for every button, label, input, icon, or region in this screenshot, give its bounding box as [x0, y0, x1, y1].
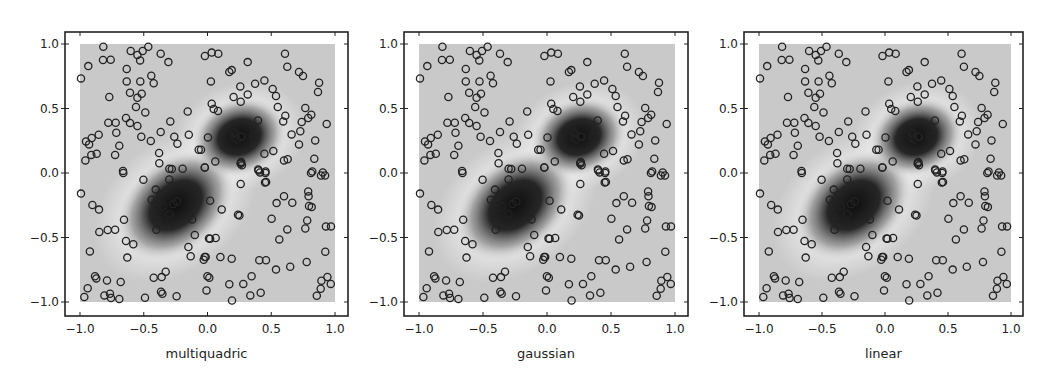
y-tick-label: −0.5: [30, 231, 59, 245]
y-tick-label: −1.0: [369, 295, 398, 309]
xlabel-multiquadric: multiquadric: [165, 346, 247, 361]
panel-gaussian: −1.0−0.50.00.51.0−1.0−0.50.00.51.0 gauss…: [369, 32, 688, 361]
x-tick-label: −1.0: [404, 322, 433, 336]
figure: −1.0−0.50.00.51.0−1.0−0.50.00.51.0 multi…: [0, 0, 1061, 384]
y-tick-label: −0.5: [369, 231, 398, 245]
y-tick-label: 0.0: [379, 166, 398, 180]
interpolated-field-image: [742, 44, 1011, 314]
xlabel-gaussian: gaussian: [517, 346, 575, 361]
x-tick-label: 0.0: [198, 322, 217, 336]
x-tick-label: −0.5: [468, 322, 497, 336]
y-tick-label: 1.0: [40, 37, 59, 51]
x-tick-label: 0.5: [262, 322, 281, 336]
y-tick-label: 0.5: [379, 102, 398, 116]
interpolated-field-image: [402, 44, 675, 314]
x-tick-label: 1.0: [325, 322, 344, 336]
panel-linear: −1.0−0.50.00.51.0−1.0−0.50.00.51.0 linea…: [709, 32, 1023, 361]
xlabel-linear: linear: [865, 346, 902, 361]
y-tick-label: 0.0: [40, 166, 59, 180]
x-tick-label: 0.0: [875, 322, 894, 336]
x-tick-label: −0.5: [807, 322, 836, 336]
x-tick-label: −1.0: [744, 322, 773, 336]
y-tick-label: 0.5: [40, 102, 59, 116]
y-tick-label: 0.5: [719, 102, 738, 116]
x-tick-label: 0.5: [938, 322, 957, 336]
x-tick-label: 0.5: [601, 322, 620, 336]
panel-multiquadric: −1.0−0.50.00.51.0−1.0−0.50.00.51.0 multi…: [30, 32, 348, 361]
x-tick-label: −1.0: [65, 322, 94, 336]
x-tick-label: −0.5: [129, 322, 158, 336]
y-tick-label: 0.0: [719, 166, 738, 180]
y-tick-label: −1.0: [709, 295, 738, 309]
x-tick-label: 1.0: [1001, 322, 1020, 336]
x-tick-label: 1.0: [665, 322, 684, 336]
y-tick-label: −0.5: [709, 231, 738, 245]
x-tick-label: 0.0: [537, 322, 556, 336]
y-tick-label: −1.0: [30, 295, 59, 309]
interpolated-field-image: [63, 44, 335, 314]
y-tick-label: 1.0: [719, 37, 738, 51]
y-tick-label: 1.0: [379, 37, 398, 51]
